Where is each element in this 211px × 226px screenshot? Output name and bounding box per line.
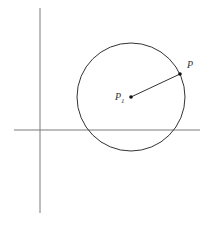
- center-label-letter: P: [114, 91, 121, 102]
- circumference-point-label: P: [186, 59, 193, 70]
- center-point-p1: [129, 95, 133, 99]
- center-label-subscript: 1: [121, 97, 125, 105]
- circumference-point-p: [178, 72, 182, 76]
- center-point-label: P1: [114, 91, 125, 105]
- radius-segment: [131, 74, 180, 97]
- circle-diagram: P1 P: [0, 0, 211, 226]
